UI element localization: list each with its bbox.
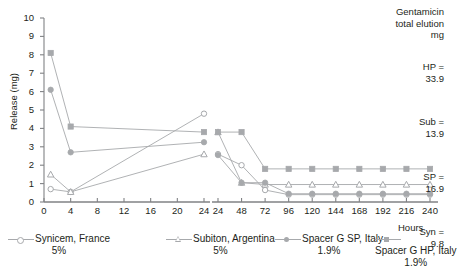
legend-label: Synicem, France [35,233,110,244]
x-tick-label-left: 8 [84,205,110,216]
elution-label-sub: Sub = [419,116,444,127]
legend-concentration: 5% [8,245,110,257]
legend-label: Spacer G HP, Italy [375,245,457,256]
y-tick-label: 1 [18,178,34,189]
x-tick-label-right: 48 [229,205,255,216]
oc-marker-icon [8,235,34,244]
y-tick-label: 10 [18,12,34,23]
elution-label-sp: SP = [423,171,444,182]
x-tick-label-right: 120 [299,205,325,216]
y-axis-title: Release (mg) [8,62,19,142]
elution-summary: Gentamicin total elution mg HP = 33.9 Su… [352,6,444,261]
x-tick-label-left: 12 [111,205,137,216]
y-tick-label: 9 [18,30,34,41]
elution-value-hp: 33.9 [426,73,445,84]
elution-label-hp: HP = [423,61,444,72]
y-tick-label: 7 [18,67,34,78]
legend-label: Spacer G SP, Italy [302,233,383,244]
elution-row-sp: SP = 16.9 [352,160,444,206]
x-tick-label-right: 96 [276,205,302,216]
x-tick-label-right: 72 [252,205,278,216]
elution-value-sp: 16.9 [426,183,445,194]
elution-row-hp: HP = 33.9 [352,50,444,96]
legend-item-2[interactable]: Spacer G SP, Italy1.9% [275,233,383,257]
x-tick-label-left: 16 [138,205,164,216]
y-tick-label: 6 [18,86,34,97]
ot-marker-icon [166,235,192,244]
x-tick-label-right: 24 [205,205,231,216]
legend-concentration: 1.9% [375,257,457,268]
legend-item-3[interactable]: Spacer G HP, Italy1.9% [375,233,457,268]
legend-item-0[interactable]: Synicem, France5% [8,233,110,257]
fs-marker-icon [375,235,401,244]
legend-label: Subiton, Argentina [193,233,275,244]
x-tick-label-left: 0 [31,205,57,216]
chart-legend: Synicem, France5%Subiton, Argentina5%Spa… [0,233,446,268]
y-tick-label: 2 [18,159,34,170]
fc-marker-icon [275,235,301,244]
legend-concentration: 1.9% [275,245,383,257]
elution-heading-line3: mg [352,29,444,41]
legend-concentration: 5% [166,245,275,257]
x-tick-label-right: 144 [323,205,349,216]
y-tick-label: 4 [18,122,34,133]
elution-heading-line2: total elution [352,18,444,30]
elution-heading-line1: Gentamicin [352,6,444,18]
y-tick-label: 8 [18,49,34,60]
x-tick-label-left: 20 [164,205,190,216]
y-tick-label: 3 [18,141,34,152]
elution-row-sub: Sub = 13.9 [352,105,444,151]
legend-item-1[interactable]: Subiton, Argentina5% [166,233,275,257]
x-tick-label-left: 4 [58,205,84,216]
y-tick-label: 5 [18,104,34,115]
elution-value-sub: 13.9 [426,128,445,139]
